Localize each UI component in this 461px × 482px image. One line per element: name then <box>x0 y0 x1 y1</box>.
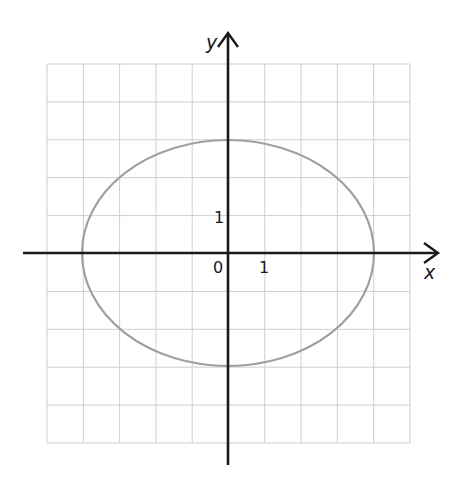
x-axis-label: x <box>423 261 436 283</box>
coordinate-plane: x y 0 1 1 <box>0 0 461 482</box>
origin-label: 0 <box>213 258 223 277</box>
y-axis-label: y <box>205 31 218 53</box>
y-tick-label: 1 <box>214 208 224 227</box>
x-tick-label: 1 <box>259 258 269 277</box>
